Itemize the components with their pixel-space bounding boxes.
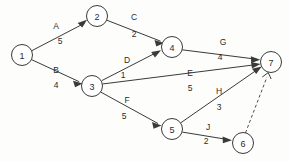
edge-j-weight: 2 <box>204 136 209 146</box>
node-2[interactable]: 2 <box>87 6 108 27</box>
node-6-label: 6 <box>240 139 245 149</box>
edge-g-arrowhead-icon <box>251 56 260 63</box>
edge-b-name: B <box>53 65 59 75</box>
node-5-label: 5 <box>169 125 174 135</box>
edge-j-name: J <box>206 122 210 132</box>
node-4-label: 4 <box>169 43 174 53</box>
edge-h-name: H <box>216 86 222 96</box>
edge-a-weight: 5 <box>58 36 63 46</box>
edge-e-line <box>102 65 257 85</box>
edge-d-name: D <box>124 55 130 65</box>
edge-h-weight: 3 <box>217 102 222 112</box>
edge-f-name: F <box>124 95 129 105</box>
edge-e <box>102 62 260 84</box>
edge-dummy-line <box>246 77 268 133</box>
edges-layer <box>31 20 271 144</box>
edge-c-weight: 2 <box>132 29 137 39</box>
node-2-label: 2 <box>94 12 99 22</box>
edge-j-arrowhead-icon <box>223 137 232 144</box>
edge-e-name: E <box>187 68 193 78</box>
node-3-label: 3 <box>89 82 94 92</box>
node-7-label: 7 <box>268 58 273 68</box>
node-3[interactable]: 3 <box>82 76 103 97</box>
node-6[interactable]: 6 <box>233 133 254 154</box>
edge-a-name: A <box>53 21 59 31</box>
edge-g-name: G <box>220 37 227 47</box>
edge-b-weight: 4 <box>54 80 59 90</box>
edge-dummy-arrowhead-icon <box>262 73 271 79</box>
edge-c-name: C <box>131 12 137 22</box>
node-1-label: 1 <box>19 51 24 61</box>
edge-d-weight: 1 <box>121 70 126 80</box>
node-4[interactable]: 4 <box>162 37 183 58</box>
edge-dummy-6-to-7 <box>246 73 272 133</box>
node-7[interactable]: 7 <box>261 52 282 73</box>
edge-d <box>102 50 161 80</box>
network-diagram: A 5 B 4 C 2 D 1 E 5 F 5 G 4 H 3 J 2 1 <box>0 0 289 162</box>
edge-f <box>101 92 162 129</box>
edge-e-weight: 5 <box>188 83 193 93</box>
edge-d-arrowhead-icon <box>151 50 161 57</box>
edge-g-weight: 4 <box>218 52 223 62</box>
nodes-layer: 1 2 3 4 5 6 <box>12 6 282 154</box>
edge-f-weight: 5 <box>122 111 127 121</box>
node-5[interactable]: 5 <box>162 119 183 140</box>
node-1[interactable]: 1 <box>12 45 33 66</box>
network-diagram-canvas: A 5 B 4 C 2 D 1 E 5 F 5 G 4 H 3 J 2 1 <box>0 0 289 162</box>
